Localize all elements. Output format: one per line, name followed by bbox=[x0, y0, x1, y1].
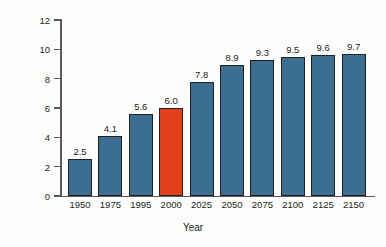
x-tick-label: 2000 bbox=[161, 199, 182, 210]
bar-value-label: 2.5 bbox=[73, 146, 86, 157]
x-tick-label: 2100 bbox=[282, 199, 303, 210]
bar[interactable] bbox=[311, 55, 335, 196]
bar-group[interactable]: 2.51950 bbox=[68, 20, 92, 196]
y-tick-label: 2 bbox=[45, 161, 50, 172]
bar-group[interactable]: 9.62125 bbox=[311, 20, 335, 196]
x-tick-label: 2025 bbox=[191, 199, 212, 210]
plot-area: 2.519504.119755.619956.020007.820258.920… bbox=[60, 20, 372, 196]
bar-group[interactable]: 9.72150 bbox=[342, 20, 366, 196]
x-tick-label: 2125 bbox=[313, 199, 334, 210]
y-tick-label: 10 bbox=[39, 44, 50, 55]
x-tick-label: 1995 bbox=[130, 199, 151, 210]
x-tick-label: 1950 bbox=[69, 199, 90, 210]
x-tick-label: 2075 bbox=[252, 199, 273, 210]
bar-value-label: 9.7 bbox=[347, 41, 360, 52]
x-tick-label: 2150 bbox=[343, 199, 364, 210]
bar-group[interactable]: 7.82025 bbox=[190, 20, 214, 196]
x-tick-label: 1975 bbox=[100, 199, 121, 210]
bar-value-label: 9.3 bbox=[256, 47, 269, 58]
bar[interactable] bbox=[281, 57, 305, 196]
bar-group[interactable]: 9.32075 bbox=[250, 20, 274, 196]
bar-value-label: 9.5 bbox=[286, 44, 299, 55]
y-tick-label: 6 bbox=[45, 103, 50, 114]
y-tick-label: 12 bbox=[39, 15, 50, 26]
bar[interactable] bbox=[342, 54, 366, 196]
bar-value-label: 5.6 bbox=[134, 101, 147, 112]
bar[interactable] bbox=[159, 108, 183, 196]
y-tick-label: 0 bbox=[45, 191, 50, 202]
bar-value-label: 7.8 bbox=[195, 69, 208, 80]
bar[interactable] bbox=[98, 136, 122, 196]
bar[interactable] bbox=[190, 82, 214, 196]
bar-value-label: 8.9 bbox=[225, 52, 238, 63]
bar-value-label: 4.1 bbox=[104, 123, 117, 134]
bar-group[interactable]: 5.61995 bbox=[129, 20, 153, 196]
bar-group[interactable]: 9.52100 bbox=[281, 20, 305, 196]
bar[interactable] bbox=[68, 159, 92, 196]
x-tick-label: 2050 bbox=[221, 199, 242, 210]
bar-group[interactable]: 8.92050 bbox=[220, 20, 244, 196]
bar-value-label: 6.0 bbox=[165, 95, 178, 106]
bar[interactable] bbox=[250, 60, 274, 196]
bar[interactable] bbox=[129, 114, 153, 196]
population-bar-chart: Population (Billions) 024681012 2.519504… bbox=[0, 0, 386, 247]
x-axis-title: Year bbox=[0, 222, 386, 233]
bar-group[interactable]: 6.02000 bbox=[159, 20, 183, 196]
bar[interactable] bbox=[220, 65, 244, 196]
bar-group[interactable]: 4.11975 bbox=[98, 20, 122, 196]
y-tick-label: 8 bbox=[45, 73, 50, 84]
y-tick-label: 4 bbox=[45, 132, 50, 143]
bar-value-label: 9.6 bbox=[317, 42, 330, 53]
